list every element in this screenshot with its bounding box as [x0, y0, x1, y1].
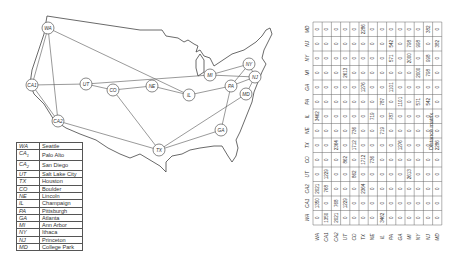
matrix-cell: 0: [334, 129, 339, 132]
matrix-cell: 0: [334, 71, 339, 74]
matrix-cell: 0: [398, 202, 403, 205]
svg-text:NY: NY: [246, 62, 253, 67]
matrix-cell: 0: [361, 115, 366, 118]
matrix-cell: 2613: [407, 169, 412, 180]
matrix-cell: 998: [426, 54, 431, 62]
matrix-cell: 0: [315, 28, 320, 31]
matrix-cell: 0: [398, 28, 403, 31]
matrix-cell: 0: [380, 28, 385, 31]
legend-abbr: CA1: [17, 150, 40, 160]
matrix-row-label: NJ: [426, 233, 431, 239]
node-NY: NY: [243, 58, 255, 70]
matrix-cell: 0: [352, 71, 357, 74]
svg-text:WA: WA: [44, 26, 52, 31]
matrix-cell: 0: [324, 202, 329, 205]
matrix-cell: 571: [389, 54, 394, 62]
edge-CA1-UT: [32, 84, 86, 85]
matrix-cell: 0: [435, 71, 440, 74]
matrix-cell: 0: [407, 71, 412, 74]
legend-city: Princeton: [40, 236, 83, 243]
matrix-cell: 0: [343, 57, 348, 60]
matrix-col-label: NE: [305, 127, 310, 134]
node-CA1: CA1: [26, 79, 38, 91]
matrix-cell: 0: [370, 100, 375, 103]
matrix-cell: 798: [426, 68, 431, 76]
legend-row: WASeattle: [17, 143, 83, 150]
matrix-cell: 0: [352, 158, 357, 161]
matrix-cell: 2613: [343, 67, 348, 78]
matrix-cell: 0: [380, 187, 385, 190]
matrix-cell: 0: [370, 144, 375, 147]
matrix-cell: 0: [352, 202, 357, 205]
matrix-cell: 0: [416, 216, 421, 219]
matrix-cell: 0: [389, 71, 394, 74]
node-WA: WA: [42, 22, 54, 34]
node-TX: TX: [153, 144, 165, 156]
matrix-cell: 3462: [315, 111, 320, 122]
matrix-cell: 0: [370, 202, 375, 205]
legend-abbr: CO: [17, 185, 40, 192]
matrix-cell: 862: [352, 170, 357, 178]
matrix-cell: 0: [361, 144, 366, 147]
matrix-cell: 0: [389, 187, 394, 190]
matrix-cell: 0: [343, 173, 348, 176]
legend-abbr: WA: [17, 143, 40, 150]
matrix-cell: 0: [334, 57, 339, 60]
matrix-row-label: NE: [370, 233, 375, 240]
matrix-cell: 1350: [315, 198, 320, 209]
matrix-cell: 1229: [324, 169, 329, 180]
matrix-cell: 0: [352, 86, 357, 89]
matrix-cell: 382: [435, 39, 440, 47]
edge-TX-MD: [159, 94, 246, 150]
legend-row: COBoulder: [17, 185, 83, 192]
legend-city: San Diego: [40, 160, 83, 170]
matrix-cell: 0: [416, 115, 421, 118]
matrix-cell: 862: [343, 155, 348, 163]
matrix-cell: 0: [324, 129, 329, 132]
node-GA: GA: [215, 124, 227, 136]
matrix-cell: 0: [324, 100, 329, 103]
matrix-cell: 0: [380, 202, 385, 205]
matrix-row-label: PA: [389, 234, 394, 240]
matrix-row-label: MD: [435, 233, 440, 241]
matrix-row-label: GA: [398, 234, 403, 241]
node-CA2: CA2: [52, 115, 64, 127]
legend-row: NJPrinceton: [17, 236, 83, 243]
svg-text:NJ: NJ: [252, 75, 258, 80]
matrix-cell: 0: [398, 216, 403, 219]
matrix-cell: 0: [416, 173, 421, 176]
matrix-cell: 0: [389, 144, 394, 147]
legend-abbr: MD: [17, 244, 40, 251]
matrix-cell: 0: [435, 28, 440, 31]
matrix-cell: 2021: [334, 212, 339, 223]
matrix-cell: 0: [389, 216, 394, 219]
edge-WA-CA1: [32, 28, 48, 85]
matrix-cell: 0: [324, 42, 329, 45]
svg-text:TX: TX: [156, 148, 163, 153]
matrix-cell: 0: [343, 129, 348, 132]
matrix-cell: 2021: [315, 183, 320, 194]
svg-text:PA: PA: [228, 84, 234, 89]
matrix-cell: 1350: [324, 212, 329, 223]
matrix-cell: 0: [334, 173, 339, 176]
matrix-cell: 0: [435, 216, 440, 219]
matrix-cell: 0: [324, 158, 329, 161]
edge-MI-NJ: [210, 75, 255, 77]
matrix-cell: 0: [343, 115, 348, 118]
matrix-cell: 0: [426, 86, 431, 89]
svg-text:NE: NE: [149, 84, 156, 89]
legend-row: ILChampaign: [17, 200, 83, 207]
matrix-cell: 0: [407, 28, 412, 31]
node-PA: PA: [225, 80, 237, 92]
matrix-cell: 0: [370, 57, 375, 60]
matrix-cell: 1101: [389, 82, 394, 92]
network-nodes: WACA1CA2UTCONEILTXMIPANYNJMDGA: [26, 22, 261, 156]
node-MD: MD: [240, 88, 252, 100]
matrix-cell: 0: [435, 158, 440, 161]
matrix-col-label: PA: [305, 99, 310, 105]
matrix-cell: 382: [426, 25, 431, 33]
matrix-cell: 0: [389, 129, 394, 132]
matrix-row-label: NY: [416, 233, 421, 240]
matrix-cell: 0: [343, 28, 348, 31]
matrix-cell: 1101: [398, 96, 403, 106]
